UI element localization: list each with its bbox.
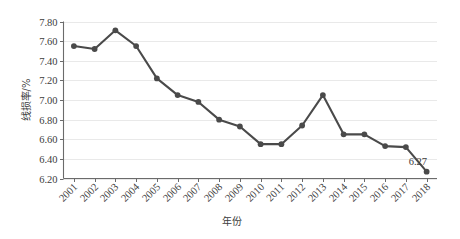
x-tick-label-2014: 2014 [327,181,350,204]
data-point-2009 [237,124,243,130]
data-point-2018 [424,169,430,175]
data-point-2001 [71,43,77,49]
x-tick-label-2011: 2011 [264,181,286,203]
y-tick-label-7.20: 7.20 [39,75,57,86]
x-tick-label-2016: 2016 [368,181,391,204]
data-point-2013 [320,92,326,98]
gridlines [64,23,438,180]
data-label-2018: 6.27 [409,156,427,167]
series-line-line-loss-rate [74,30,427,171]
data-point-2011 [278,141,284,147]
x-tick-label-2003: 2003 [98,181,121,204]
y-tick-label-6.60: 6.60 [39,134,57,145]
data-point-2012 [299,123,305,129]
x-tick-label-2010: 2010 [244,181,267,204]
data-point-2005 [154,76,160,82]
chart-canvas: 6.206.406.606.807.007.207.407.607.80 200… [0,0,460,239]
x-tick-label-2008: 2008 [202,181,225,204]
series-markers [71,27,430,174]
data-point-2015 [361,131,367,137]
y-tick-label-6.40: 6.40 [39,154,57,165]
line-chart-figure: 6.206.406.606.807.007.207.407.607.80 200… [0,0,460,239]
data-point-2006 [175,92,181,98]
data-point-2002 [92,46,98,52]
x-tick-label-2013: 2013 [306,181,329,204]
x-tick-label-2017: 2017 [389,181,412,204]
y-tick-label-7.00: 7.00 [39,95,57,106]
y-tick-label-7.80: 7.80 [39,17,57,28]
x-tick-label-2009: 2009 [223,181,246,204]
x-tick-label-2004: 2004 [119,181,142,204]
x-tick-label-2007: 2007 [181,181,204,204]
x-tick-label-2018: 2018 [410,181,433,204]
y-axis-tick-labels: 6.206.406.606.807.007.207.407.607.80 [39,17,57,185]
x-tick-label-2006: 2006 [161,181,184,204]
data-point-2010 [258,141,264,147]
x-tick-label-2012: 2012 [285,181,308,204]
data-point-annotations: 6.27 [409,156,427,167]
data-point-2004 [133,43,139,49]
x-tick-label-2015: 2015 [347,181,370,204]
x-axis-title: 年份 [222,215,242,227]
y-tick-label-7.60: 7.60 [39,36,57,47]
y-tick-label-6.20: 6.20 [39,174,57,185]
data-point-2003 [112,27,118,33]
data-point-2016 [382,143,388,149]
y-tick-label-7.40: 7.40 [39,56,57,67]
data-point-2008 [216,117,222,123]
y-tick-label-6.80: 6.80 [39,115,57,126]
x-tick-label-2005: 2005 [140,181,163,204]
data-point-2014 [341,131,347,137]
x-tick-label-2001: 2001 [57,181,80,204]
x-axis-tick-labels: 2001200220032004200520062007200820092010… [57,181,433,204]
data-point-2017 [403,144,409,150]
x-tick-label-2002: 2002 [78,181,101,204]
data-point-2007 [195,99,201,105]
y-axis-title: 线损率/% [20,79,32,122]
